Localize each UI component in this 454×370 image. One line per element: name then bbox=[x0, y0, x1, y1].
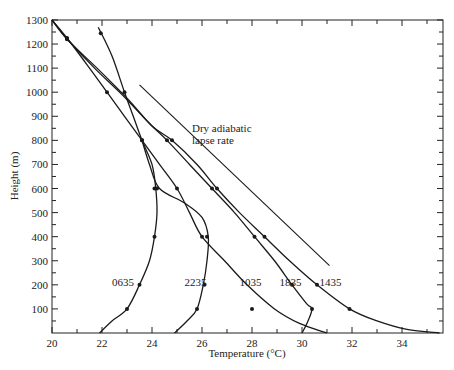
y-tick-label: 1100 bbox=[26, 62, 48, 74]
x-tick-label: 20 bbox=[47, 337, 59, 349]
x-tick-label: 34 bbox=[397, 337, 409, 349]
curve-label-1035: 1035 bbox=[240, 276, 263, 288]
y-tick-label: 900 bbox=[32, 110, 49, 122]
data-point-marker bbox=[200, 235, 204, 239]
x-axis: 2022242628303234 bbox=[47, 20, 428, 349]
y-tick-label: 100 bbox=[32, 303, 49, 315]
annotation-dry-adiabatic: Dry adiabatic bbox=[192, 122, 252, 134]
y-axis-title: Height (m) bbox=[8, 151, 21, 200]
curve-label-1435: 1435 bbox=[320, 276, 343, 288]
data-point-marker bbox=[250, 307, 254, 311]
data-point-marker bbox=[99, 31, 103, 35]
data-point-marker bbox=[165, 138, 169, 142]
curve-label-2235: 2235 bbox=[185, 276, 208, 288]
temperature-height-chart: 2022242628303234 10020030040050060070080… bbox=[0, 0, 454, 370]
curve-1835 bbox=[52, 20, 312, 333]
y-tick-label: 800 bbox=[32, 134, 49, 146]
data-point-marker bbox=[105, 90, 109, 94]
x-axis-title: Temperature (°C) bbox=[208, 347, 286, 360]
curve-label-0635: 0635 bbox=[112, 276, 135, 288]
data-point-marker bbox=[263, 235, 267, 239]
data-point-marker bbox=[215, 187, 219, 191]
x-tick-label: 24 bbox=[147, 337, 159, 349]
y-tick-label: 600 bbox=[32, 183, 49, 195]
data-point-marker bbox=[65, 37, 69, 41]
data-point-marker bbox=[195, 307, 199, 311]
data-point-marker bbox=[315, 283, 319, 287]
x-tick-label: 30 bbox=[297, 337, 309, 349]
y-tick-label: 500 bbox=[32, 207, 49, 219]
data-point-marker bbox=[155, 187, 159, 191]
y-tick-label: 200 bbox=[32, 279, 49, 291]
data-point-marker bbox=[125, 307, 129, 311]
y-tick-label: 1300 bbox=[26, 14, 49, 26]
data-point-marker bbox=[140, 138, 144, 142]
data-point-marker bbox=[348, 307, 352, 311]
annotation-dry-adiabatic: lapse rate bbox=[192, 134, 234, 146]
data-point-marker bbox=[175, 187, 179, 191]
y-tick-label: 300 bbox=[32, 255, 49, 267]
x-tick-label: 32 bbox=[347, 337, 358, 349]
y-tick-label: 700 bbox=[32, 158, 49, 170]
y-tick-label: 400 bbox=[32, 231, 49, 243]
data-point-marker bbox=[153, 235, 157, 239]
curve-2235 bbox=[142, 140, 209, 333]
y-tick-label: 1000 bbox=[26, 86, 49, 98]
data-point-marker bbox=[310, 307, 314, 311]
x-tick-label: 26 bbox=[197, 337, 209, 349]
data-point-marker bbox=[210, 187, 214, 191]
curve-labels: 06352235103518351435 bbox=[112, 276, 342, 288]
data-point-marker bbox=[253, 235, 257, 239]
data-point-marker bbox=[205, 235, 209, 239]
curve-label-1835: 1835 bbox=[280, 276, 303, 288]
y-tick-label: 1200 bbox=[26, 38, 49, 50]
x-tick-label: 22 bbox=[97, 337, 108, 349]
data-point-marker bbox=[170, 138, 174, 142]
data-point-marker bbox=[138, 283, 142, 287]
